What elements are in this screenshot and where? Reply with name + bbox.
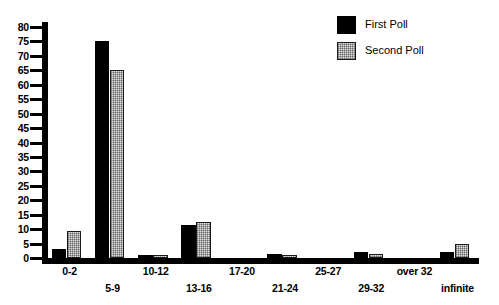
x-axis-label-17-20: 17-20 xyxy=(210,266,273,277)
x-axis-label-13-16: 13-16 xyxy=(167,283,230,294)
x-axis-label-29-32: 29-32 xyxy=(340,283,403,294)
x-axis-label-5-9: 5-9 xyxy=(81,283,144,294)
bar-first-poll-5-9 xyxy=(95,41,110,258)
bar-second-poll-5-9 xyxy=(110,70,125,258)
x-axis-label-10-12: 10-12 xyxy=(124,266,187,277)
x-axis-label-0-2: 0-2 xyxy=(38,266,101,277)
bar-first-poll-29-32 xyxy=(354,252,369,258)
bar-second-poll-infinite xyxy=(455,244,470,258)
bar-first-poll-0-2 xyxy=(52,249,67,258)
bar-first-poll-infinite xyxy=(440,252,455,258)
bar-first-poll-10-12 xyxy=(138,255,153,258)
bar-chart: 80757065605550454035302520151050 0-25-91… xyxy=(0,0,499,305)
legend-swatch-second-poll xyxy=(337,42,356,60)
bar-second-poll-0-2 xyxy=(67,231,82,258)
bar-second-poll-29-32 xyxy=(369,254,384,258)
legend-label-second-poll: Second Poll xyxy=(365,44,424,56)
x-axis-label-25-27: 25-27 xyxy=(297,266,360,277)
x-axis-label-over-32: over 32 xyxy=(383,266,446,277)
legend-item-second-poll: Second Poll xyxy=(337,40,487,66)
legend-item-first-poll: First Poll xyxy=(337,14,487,40)
x-axis-label-21-24: 21-24 xyxy=(254,283,317,294)
bar-first-poll-21-24 xyxy=(267,254,282,258)
bar-first-poll-13-16 xyxy=(181,225,196,258)
legend-label-first-poll: First Poll xyxy=(365,18,408,30)
bar-second-poll-21-24 xyxy=(282,255,297,258)
x-axis-label-infinite: infinite xyxy=(426,283,489,294)
bar-second-poll-13-16 xyxy=(196,222,211,258)
legend-swatch-first-poll xyxy=(337,16,356,34)
bar-second-poll-10-12 xyxy=(153,255,168,258)
chart-legend: First Poll Second Poll xyxy=(337,14,487,66)
